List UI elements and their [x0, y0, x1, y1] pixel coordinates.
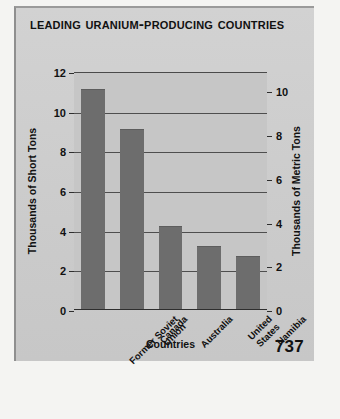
y-tick-label-left: 4	[60, 226, 66, 238]
y-tick-right	[267, 136, 272, 137]
chart-title: Leading Uranium-Producing Countries	[30, 15, 298, 33]
y-tick-right	[267, 92, 272, 93]
y-tick-label-left: 12	[54, 67, 66, 79]
y-tick-left	[69, 232, 74, 233]
y-tick-label-right: 6	[276, 174, 282, 186]
y-axis-left-title-text: Thousands of Short Tons	[26, 128, 38, 254]
y-axis-right-title-text: Thousands of Metric Tons	[290, 126, 302, 256]
x-axis-title: Countries	[74, 338, 267, 350]
y-tick-label-right: 0	[276, 305, 282, 317]
y-tick-label-left: 8	[60, 146, 66, 158]
y-tick-left	[69, 192, 74, 193]
page-number: 737	[275, 337, 304, 357]
y-tick-label-right: 8	[276, 130, 282, 142]
y-tick-left	[69, 113, 74, 114]
y-tick-label-left: 6	[60, 186, 66, 198]
bar	[236, 256, 260, 310]
y-tick-left	[69, 73, 74, 74]
bar	[120, 129, 144, 310]
y-tick-label-left: 10	[54, 107, 66, 119]
y-tick-label-right: 10	[276, 86, 288, 98]
y-tick-label-right: 4	[276, 218, 282, 230]
y-tick-right	[267, 267, 272, 268]
y-tick-left	[69, 271, 74, 272]
y-tick-left	[69, 311, 74, 312]
bar	[159, 226, 183, 310]
y-axis-right-title: Thousands of Metric Tons	[288, 72, 304, 310]
y-tick-label-left: 2	[60, 265, 66, 277]
y-tick-label-left: 0	[60, 305, 66, 317]
plot-area: 024681012 0246810	[74, 72, 267, 310]
y-tick-left	[69, 152, 74, 153]
bar	[81, 89, 105, 310]
bar	[197, 246, 221, 310]
y-tick-label-right: 2	[276, 261, 282, 273]
y-tick-right	[267, 311, 272, 312]
page-sheet: Leading Uranium-Producing Countries 0246…	[14, 6, 314, 361]
y-axis-left-title: Thousands of Short Tons	[24, 72, 40, 310]
x-axis-baseline	[74, 309, 267, 310]
y-tick-right	[267, 180, 272, 181]
y-tick-right	[267, 224, 272, 225]
